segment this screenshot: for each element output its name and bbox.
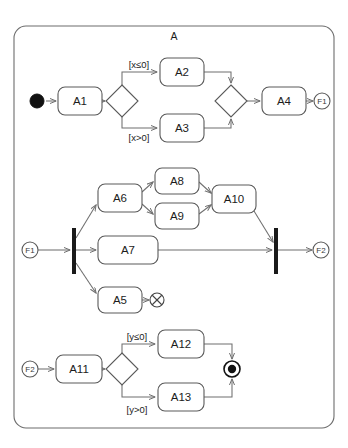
node-A9[interactable]: A9 [155, 203, 199, 229]
node-label-A10: A10 [224, 193, 244, 205]
node-A10[interactable]: A10 [212, 185, 256, 213]
node-join[interactable] [274, 228, 278, 274]
node-label-A7: A7 [121, 244, 135, 256]
node-A7[interactable]: A7 [98, 236, 158, 264]
connector-label-F2out: F2 [316, 246, 326, 255]
frame-title: A [170, 30, 177, 42]
node-final[interactable] [224, 361, 240, 377]
node-init[interactable] [30, 94, 44, 108]
node-A5[interactable]: A5 [98, 287, 142, 313]
guard-label-g4: [y>0] [127, 404, 148, 415]
node-A12[interactable]: A12 [158, 330, 204, 358]
node-label-A8: A8 [170, 175, 184, 187]
node-fork[interactable] [72, 228, 76, 274]
node-label-A13: A13 [171, 391, 191, 403]
node-label-A4: A4 [277, 95, 292, 107]
guard-label-g3: [y≤0] [127, 331, 148, 342]
node-A6[interactable]: A6 [98, 184, 142, 212]
node-F2out[interactable]: F2 [313, 242, 329, 258]
guard-label-g1: [x≤0] [129, 59, 150, 70]
node-A4[interactable]: A4 [262, 87, 306, 115]
node-label-A9: A9 [170, 210, 184, 222]
guard-label-g2: [x>0] [129, 132, 150, 143]
connector-label-F2in: F2 [25, 365, 35, 374]
node-ff[interactable] [150, 293, 164, 307]
activity-diagram: A A1A2A3A4F1F1A6A8A9A10A7A5F2F2A11A12A13… [0, 0, 348, 448]
node-label-A11: A11 [69, 363, 89, 375]
connector-label-F1in: F1 [25, 246, 35, 255]
node-label-A2: A2 [175, 66, 189, 78]
connector-label-F1out: F1 [317, 97, 327, 106]
node-A11[interactable]: A11 [56, 355, 102, 383]
node-label-A12: A12 [171, 338, 191, 350]
node-A1[interactable]: A1 [58, 87, 102, 115]
node-A3[interactable]: A3 [160, 114, 204, 142]
node-F1in[interactable]: F1 [22, 242, 38, 258]
node-label-A3: A3 [175, 122, 189, 134]
node-A2[interactable]: A2 [160, 58, 204, 86]
node-label-A6: A6 [113, 192, 127, 204]
node-A8[interactable]: A8 [155, 168, 199, 194]
node-F2in[interactable]: F2 [22, 361, 38, 377]
node-F1out[interactable]: F1 [314, 93, 330, 109]
node-A13[interactable]: A13 [158, 383, 204, 411]
diagram-canvas: A A1A2A3A4F1F1A6A8A9A10A7A5F2F2A11A12A13… [0, 0, 348, 448]
node-label-A5: A5 [113, 294, 127, 306]
node-label-A1: A1 [73, 95, 87, 107]
